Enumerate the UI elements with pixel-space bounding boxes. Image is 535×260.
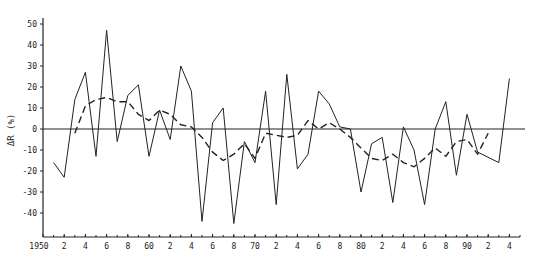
y-tick-label: 10: [27, 104, 37, 113]
x-tick-label: 4: [189, 242, 194, 251]
x-tick-label: 90: [462, 242, 472, 251]
x-tick-label: 8: [443, 242, 448, 251]
y-tick-label: 30: [27, 62, 37, 71]
x-tick-label: 2: [274, 242, 279, 251]
series-group: [54, 30, 510, 223]
y-tick-label: -30: [23, 188, 38, 197]
y-tick-label: 0: [32, 125, 37, 134]
x-tick-label: 6: [210, 242, 215, 251]
x-tick-label: 8: [125, 242, 130, 251]
y-axis: -40-30-20-1001020304050: [23, 18, 43, 237]
x-tick-label: 2: [168, 242, 173, 251]
x-tick-label: 1950: [29, 242, 48, 251]
chart: -40-30-20-1001020304050 1950246860246870…: [0, 0, 535, 260]
x-tick-label: 8: [337, 242, 342, 251]
y-tick-label: -10: [23, 146, 38, 155]
x-tick-label: 2: [62, 242, 67, 251]
y-tick-label: -40: [23, 209, 38, 218]
y-tick-label: -20: [23, 167, 38, 176]
x-tick-label: 2: [380, 242, 385, 251]
x-axis: 195024686024687024688024689024: [29, 234, 520, 251]
y-tick-label: 40: [27, 41, 37, 50]
x-tick-label: 6: [422, 242, 427, 251]
x-tick-label: 60: [144, 242, 154, 251]
series-smoothed-line: [75, 98, 488, 167]
x-tick-label: 4: [83, 242, 88, 251]
x-tick-label: 4: [401, 242, 406, 251]
x-tick-label: 80: [356, 242, 366, 251]
x-tick-label: 6: [316, 242, 321, 251]
series-annual-line: [54, 30, 510, 223]
x-tick-label: 6: [104, 242, 109, 251]
x-tick-label: 4: [295, 242, 300, 251]
y-tick-label: 50: [27, 20, 37, 29]
y-axis-label: ΔR (%): [6, 114, 16, 147]
x-tick-label: 8: [231, 242, 236, 251]
y-tick-label: 20: [27, 83, 37, 92]
x-tick-label: 2: [486, 242, 491, 251]
x-tick-label: 4: [507, 242, 512, 251]
x-tick-label: 70: [250, 242, 260, 251]
